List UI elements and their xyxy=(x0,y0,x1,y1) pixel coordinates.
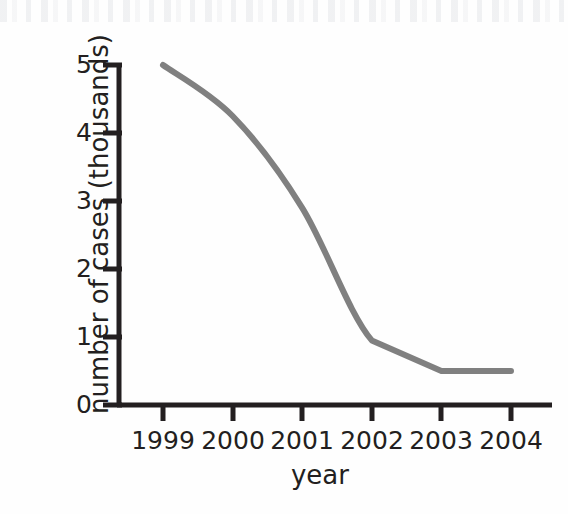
x-tick-label-2000: 2000 xyxy=(193,428,273,453)
x-axis-title: year xyxy=(120,462,520,488)
x-tick-label-2004: 2004 xyxy=(471,428,551,453)
chart-figure: 5 4 3 2 1 0 1999 2000 2001 2002 2003 200… xyxy=(0,0,568,514)
y-axis-title: number of cases (thousands) xyxy=(86,24,112,424)
x-tick-label-2002: 2002 xyxy=(332,428,412,453)
x-tick-label-2001: 2001 xyxy=(262,428,342,453)
data-series-line xyxy=(163,65,511,371)
x-tick-label-1999: 1999 xyxy=(123,428,203,453)
x-tick-label-2003: 2003 xyxy=(401,428,481,453)
